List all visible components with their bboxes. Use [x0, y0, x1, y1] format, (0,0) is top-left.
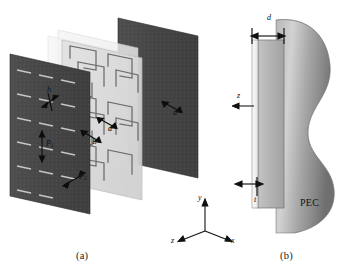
label-b-d: d — [267, 14, 271, 22]
axis-triad — [178, 199, 232, 242]
label-pec: PEC — [300, 197, 319, 208]
panel-b-canvas — [232, 14, 358, 244]
caption-a: (a) — [76, 250, 88, 261]
label-b-z: z — [237, 92, 240, 100]
label-b-t: t — [254, 196, 256, 204]
axis-label-y: y — [198, 193, 202, 202]
label-L: L — [92, 138, 96, 146]
caption-b: (b) — [280, 250, 293, 261]
label-h: h — [47, 86, 51, 94]
label-p2: P2 — [79, 173, 87, 182]
z-axis-arrow — [232, 103, 254, 109]
layer-front-slot-screen — [10, 54, 90, 214]
label-p1: P1 — [46, 140, 54, 149]
panel-a: h P1 P2 L d d y x z — [0, 0, 250, 250]
panel-b: d t z PEC — [232, 14, 358, 244]
panel-a-canvas — [0, 0, 250, 250]
axis-label-z: z — [171, 236, 174, 245]
label-d-mid: d — [108, 125, 112, 133]
label-d-back: d — [173, 109, 177, 117]
figure-root: h P1 P2 L d d y x z — [0, 0, 358, 275]
